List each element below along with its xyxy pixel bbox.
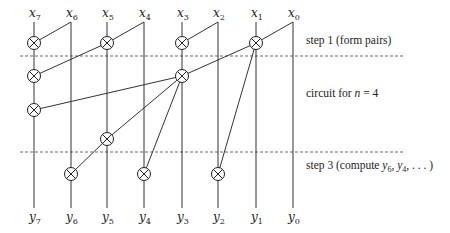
edge-x3-x7 [34,76,182,110]
input-label: x4 [139,6,151,22]
otimes-icon [28,104,41,117]
input-labels: x7 x6 x5 x4 x3 x2 x1 x0 [29,6,300,22]
output-label: y4 [138,210,151,226]
prefix-circuit-diagram: x7 x6 x5 x4 x3 x2 x1 x0 y7 y6 y5 y4 y3 y… [0,0,450,233]
edge-x1-x2 [218,43,256,174]
otimes-icon [176,70,189,83]
output-label: y0 [287,210,300,226]
otimes-icon [28,37,41,50]
input-label: x0 [288,6,300,22]
otimes-icon [250,37,263,50]
otimes-icon [101,133,114,146]
step1-note: step 1 (form pairs) [306,34,391,47]
input-label: x3 [177,6,189,22]
output-label: y3 [176,210,189,226]
output-label: y7 [28,210,41,226]
output-label: y6 [65,210,78,226]
output-label: y1 [250,210,263,226]
edge-x1-x3 [182,43,256,76]
edge-x5-x6 [71,139,107,174]
otimes-icon [101,37,114,50]
otimes-icon [176,37,189,50]
step3-note: step 3 (compute y6, y4, . . . ) [306,159,433,174]
output-label: y2 [212,210,225,226]
edge-x3-x4 [144,76,182,174]
output-label: y5 [101,210,114,226]
input-label: x2 [213,6,225,22]
input-label: x6 [66,6,78,22]
input-label: x7 [29,6,41,22]
input-label: x1 [251,6,263,22]
otimes-icon [65,168,78,181]
middle-note: circuit for n = 4 [306,87,379,99]
otimes-icon [212,168,225,181]
output-labels: y7 y6 y5 y4 y3 y2 y1 y0 [28,210,300,226]
gates [28,37,263,181]
otimes-icon [138,168,151,181]
otimes-icon [28,70,41,83]
input-label: x5 [102,6,114,22]
